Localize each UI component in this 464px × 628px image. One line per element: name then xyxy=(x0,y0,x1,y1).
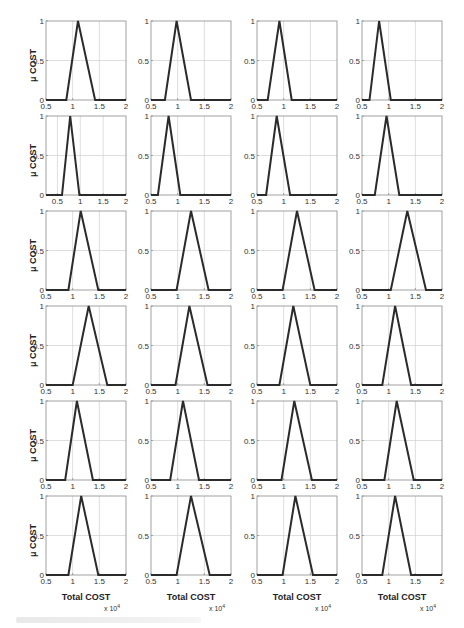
x-tick-label: 1 xyxy=(281,577,286,586)
y-tick-label: 0.5 xyxy=(244,342,256,351)
y-axis-label: μ COST xyxy=(28,524,38,557)
x-tick-label: 1.5 xyxy=(305,482,317,491)
plot-panel: 00.510.511.52 xyxy=(349,492,445,586)
y-tick-label: 1 xyxy=(145,207,150,216)
x-tick-label: 2 xyxy=(229,577,234,586)
y-tick-label: 1 xyxy=(145,17,150,26)
y-tick-label: 0 xyxy=(40,191,45,200)
x-tick-label: 0.5 xyxy=(145,197,157,206)
y-tick-label: 0.5 xyxy=(244,57,256,66)
y-axis-label: μ COST xyxy=(28,429,38,462)
plot-panel: 00.510.511.52 xyxy=(33,397,129,491)
y-tick-label: 1 xyxy=(356,112,361,121)
y-tick-label: 1 xyxy=(145,397,150,406)
x-tick-label: 1.5 xyxy=(305,292,317,301)
plot-panel: 00.510.511.52 xyxy=(33,492,129,586)
x-tick-label: 2 xyxy=(335,387,340,396)
x-tick-label: 1.5 xyxy=(410,102,422,111)
x-tick-label: 0.5 xyxy=(40,292,52,301)
y-tick-label: 1 xyxy=(251,397,256,406)
plot-panel: 00.510.511.52 xyxy=(33,302,129,396)
y-axis-label: μ COST xyxy=(28,239,38,272)
x-tick-label: 0.5 xyxy=(52,197,64,206)
x-tick-label: 0.5 xyxy=(40,387,52,396)
x-tick-label: 0.5 xyxy=(356,482,368,491)
x-tick-label: 0.5 xyxy=(40,577,52,586)
y-tick-label: 1 xyxy=(251,492,256,501)
x-tick-label: 0.5 xyxy=(145,102,157,111)
x-tick-label: 2 xyxy=(335,102,340,111)
y-tick-label: 1 xyxy=(251,207,256,216)
x-tick-label: 1 xyxy=(175,197,180,206)
y-tick-label: 0.5 xyxy=(138,342,150,351)
x-tick-label: 1 xyxy=(281,482,286,491)
x-tick-label: 1 xyxy=(386,577,391,586)
x-tick-label: 1 xyxy=(175,102,180,111)
plot-panel: 00.510.511.52 xyxy=(349,302,445,396)
x-tick-label: 1 xyxy=(386,387,391,396)
x-tick-label: 2 xyxy=(124,102,129,111)
x-tick-label: 1.5 xyxy=(199,102,211,111)
y-tick-label: 1 xyxy=(251,17,256,26)
x-tick-label: 1.5 xyxy=(410,292,422,301)
y-tick-label: 1 xyxy=(356,492,361,501)
x-axis-exponent: x 104 xyxy=(420,603,436,612)
y-tick-label: 1 xyxy=(40,112,45,121)
x-tick-label: 0.5 xyxy=(356,387,368,396)
y-tick-label: 1 xyxy=(251,302,256,311)
y-tick-label: 0.5 xyxy=(349,57,361,66)
y-tick-label: 1 xyxy=(356,17,361,26)
x-tick-label: 1.5 xyxy=(410,387,422,396)
x-tick-label: 2 xyxy=(335,577,340,586)
x-tick-label: 2 xyxy=(440,387,445,396)
small-multiples-plot-grid: 00.510.511.5200.510.511.5200.510.511.520… xyxy=(0,0,464,628)
x-tick-label: 0.5 xyxy=(251,292,263,301)
x-tick-label: 2 xyxy=(229,387,234,396)
figure-caption-illegible xyxy=(16,617,201,623)
y-tick-label: 1 xyxy=(251,112,256,121)
x-tick-label: 1 xyxy=(175,482,180,491)
x-tick-label: 1.5 xyxy=(410,482,422,491)
x-tick-label: 0.5 xyxy=(356,577,368,586)
plot-panel: 00.510.511.52 xyxy=(244,302,340,396)
y-axis-label: μ COST xyxy=(28,144,38,177)
x-tick-label: 2 xyxy=(124,292,129,301)
y-tick-label: 0.5 xyxy=(349,247,361,256)
y-tick-label: 1 xyxy=(40,207,45,216)
x-tick-label: 1.5 xyxy=(199,482,211,491)
x-tick-label: 1.5 xyxy=(94,482,106,491)
plot-panel: 00.510.511.52 xyxy=(244,397,340,491)
x-tick-label: 1.5 xyxy=(199,577,211,586)
x-tick-label: 1 xyxy=(386,482,391,491)
plot-panel: 00.510.511.52 xyxy=(349,397,445,491)
x-tick-label: 2 xyxy=(440,577,445,586)
x-axis-exponent: x 104 xyxy=(209,603,225,612)
x-tick-label: 1 xyxy=(386,102,391,111)
x-tick-label: 1.5 xyxy=(94,577,106,586)
x-tick-label: 1.5 xyxy=(98,197,110,206)
x-tick-label: 0.5 xyxy=(145,387,157,396)
x-tick-label: 0.5 xyxy=(251,102,263,111)
x-tick-label: 1 xyxy=(70,387,75,396)
x-tick-label: 2 xyxy=(335,197,340,206)
x-tick-label: 1 xyxy=(78,197,83,206)
plot-panel: 00.510.511.52 xyxy=(33,207,129,301)
x-tick-label: 0.5 xyxy=(356,292,368,301)
plot-panel: 00.510.511.52 xyxy=(138,397,234,491)
x-tick-label: 1 xyxy=(70,102,75,111)
plot-panel: 00.510.511.52 xyxy=(138,207,234,301)
x-tick-label: 2 xyxy=(229,197,234,206)
x-axis-exponent: x 104 xyxy=(104,603,120,612)
y-axis-label: μ COST xyxy=(28,49,38,82)
y-tick-label: 1 xyxy=(40,492,45,501)
y-tick-label: 1 xyxy=(356,207,361,216)
x-tick-label: 1.5 xyxy=(410,197,422,206)
y-tick-label: 0.5 xyxy=(138,437,150,446)
figure: 00.510.511.5200.510.511.5200.510.511.520… xyxy=(0,0,464,628)
x-tick-label: 1 xyxy=(386,197,391,206)
x-tick-label: 0.5 xyxy=(145,292,157,301)
y-tick-label: 1 xyxy=(356,302,361,311)
x-tick-label: 2 xyxy=(335,482,340,491)
x-tick-label: 1 xyxy=(281,387,286,396)
plot-panel: 00.510.511.52 xyxy=(244,492,340,586)
